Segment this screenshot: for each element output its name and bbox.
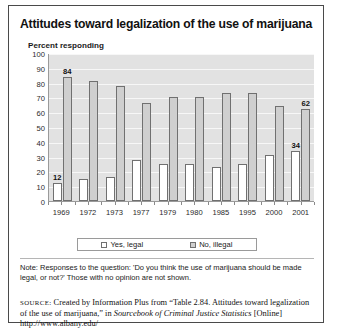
- y-tick-100: 100: [32, 50, 45, 59]
- bar-1980-yes[interactable]: [185, 164, 194, 201]
- x-tick: [115, 202, 116, 205]
- bar-group-1977: [132, 54, 151, 201]
- bar-group-1972: [79, 54, 98, 201]
- y-tick-90: 90: [37, 64, 45, 73]
- x-tick: [274, 202, 275, 205]
- figure-source: SOURCE: Created by Information Plus from…: [20, 298, 316, 330]
- legend-label: No, illegal: [199, 240, 232, 249]
- bar-group-1973: [106, 54, 125, 201]
- bar-1995-yes[interactable]: [238, 164, 247, 201]
- x-tick-1973: 1973: [106, 208, 123, 220]
- bar-1980-no[interactable]: [195, 97, 204, 201]
- bar-group-1995: [238, 54, 257, 201]
- bar-1973-no[interactable]: [116, 86, 125, 201]
- x-tick-1977: 1977: [133, 208, 150, 220]
- y-axis-tick-labels: 0102030405060708090100: [28, 54, 45, 202]
- bar-group-1969: 1284: [53, 54, 72, 201]
- bar-1995-no[interactable]: [248, 93, 257, 201]
- bar-value-label: 12: [53, 173, 61, 182]
- x-tick-2001: 2001: [292, 208, 309, 220]
- bar-group-1985: [212, 54, 231, 201]
- bar-1985-yes[interactable]: [212, 167, 221, 201]
- figure-note: Note: Responses to the question: 'Do you…: [20, 263, 316, 282]
- gray-square-icon: [190, 242, 196, 248]
- x-tick-1969: 1969: [53, 208, 70, 220]
- legend-label: Yes, legal: [110, 240, 143, 249]
- x-tick-1972: 1972: [79, 208, 96, 220]
- y-tick-80: 80: [37, 79, 45, 88]
- x-tick: [168, 202, 169, 205]
- bar-1979-no[interactable]: [169, 97, 178, 201]
- x-tick: [248, 202, 249, 205]
- bar-2000-yes[interactable]: [265, 155, 274, 201]
- bar-1985-no[interactable]: [222, 93, 231, 201]
- x-tick: [287, 202, 288, 205]
- source-label: SOURCE:: [20, 299, 52, 306]
- bar-2001-no[interactable]: 62: [301, 109, 310, 201]
- white-square-icon: [101, 242, 107, 248]
- x-tick: [208, 202, 209, 205]
- x-tick: [101, 202, 102, 205]
- x-tick-1985: 1985: [212, 208, 229, 220]
- bar-value-label: 34: [292, 141, 300, 150]
- y-tick-20: 20: [37, 168, 45, 177]
- chart-legend: Yes, legalNo, illegal: [77, 238, 257, 251]
- bar-group-1979: [159, 54, 178, 201]
- source-italic-1: Sourcebook of Criminal Justice Statistic…: [114, 309, 252, 318]
- bar-1972-yes[interactable]: [79, 179, 88, 201]
- x-tick: [61, 202, 62, 205]
- legend-item-no-illegal[interactable]: No, illegal: [190, 240, 232, 249]
- bar-1969-no[interactable]: 84: [63, 77, 72, 201]
- bar-group-1980: [185, 54, 204, 201]
- x-tick-1995: 1995: [239, 208, 256, 220]
- bar-1973-yes[interactable]: [106, 177, 115, 201]
- plot-background: 12843462: [48, 54, 314, 202]
- bar-group-2000: [265, 54, 284, 201]
- bar-value-label: 84: [63, 67, 71, 76]
- y-tick-10: 10: [37, 183, 45, 192]
- x-tick: [141, 202, 142, 205]
- x-tick: [261, 202, 262, 205]
- y-tick-40: 40: [37, 138, 45, 147]
- x-tick: [128, 202, 129, 205]
- bar-2000-no[interactable]: [275, 106, 284, 201]
- x-tick-1979: 1979: [159, 208, 176, 220]
- bar-2001-yes[interactable]: 34: [291, 151, 300, 201]
- y-tick-50: 50: [37, 124, 45, 133]
- x-tick: [234, 202, 235, 205]
- x-tick-1980: 1980: [186, 208, 203, 220]
- x-tick: [301, 202, 302, 205]
- x-tick-2000: 2000: [266, 208, 283, 220]
- x-tick: [221, 202, 222, 205]
- legend-item-yes-legal[interactable]: Yes, legal: [101, 240, 143, 249]
- x-tick: [154, 202, 155, 205]
- bar-1977-no[interactable]: [142, 103, 151, 201]
- x-tick: [48, 202, 49, 205]
- figure-frame: Attitudes toward legalization of the use…: [8, 5, 324, 323]
- x-tick: [314, 202, 315, 205]
- bar-1977-yes[interactable]: [132, 160, 141, 201]
- bar-1969-yes[interactable]: 12: [53, 183, 62, 201]
- x-tick: [88, 202, 89, 205]
- y-tick-60: 60: [37, 109, 45, 118]
- section-divider: [20, 258, 314, 259]
- bar-1979-yes[interactable]: [159, 164, 168, 201]
- bar-groups: 12843462: [49, 54, 314, 201]
- x-tick: [181, 202, 182, 205]
- y-tick-30: 30: [37, 153, 45, 162]
- x-axis-tick-labels: 1969197219731977197919801985199520002001: [48, 208, 314, 220]
- bar-group-2001: 3462: [291, 54, 310, 201]
- bar-1972-no[interactable]: [89, 81, 98, 201]
- figure-title: Attitudes toward legalization of the use…: [20, 17, 320, 31]
- x-tick: [75, 202, 76, 205]
- x-tick: [194, 202, 195, 205]
- y-tick-70: 70: [37, 94, 45, 103]
- y-tick-0: 0: [41, 198, 45, 207]
- bar-value-label: 62: [302, 99, 310, 108]
- chart-area: 0102030405060708090100 12843462 19691972…: [28, 54, 314, 234]
